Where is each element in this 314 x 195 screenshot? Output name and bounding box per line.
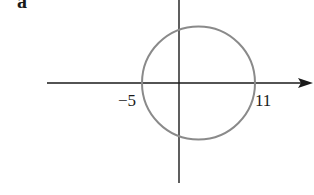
part-label: a (17, 0, 27, 11)
x-intercept-label-left: −5 (118, 92, 136, 109)
circle-graph-figure: a −5 11 (0, 0, 314, 195)
x-intercept-label-right: 11 (255, 92, 271, 109)
